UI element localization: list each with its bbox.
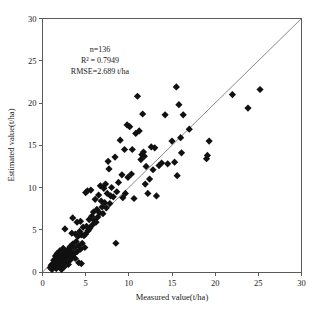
data-point <box>139 110 146 117</box>
data-point <box>144 190 151 197</box>
data-point <box>111 153 118 160</box>
y-tick-label-10: 10 <box>28 183 37 193</box>
data-point <box>244 104 251 111</box>
data-point <box>177 134 184 141</box>
y-tick-label-0: 0 <box>32 267 36 277</box>
x-tick-label-30: 30 <box>297 278 306 288</box>
y-tick-label-5: 5 <box>32 225 36 235</box>
data-point <box>149 166 156 173</box>
y-axis-ticks <box>39 19 43 273</box>
data-point <box>112 240 119 247</box>
data-point <box>134 93 141 100</box>
data-point <box>61 225 68 232</box>
data-point <box>180 111 187 118</box>
x-axis-title: Measured value(t/ha) <box>136 292 209 302</box>
x-axis-ticks <box>43 272 302 276</box>
y-axis-tick-labels: 051015202530 <box>28 14 37 278</box>
data-point <box>174 172 181 179</box>
data-point <box>229 91 236 98</box>
y-tick-label-20: 20 <box>28 98 37 108</box>
data-point <box>256 86 263 93</box>
data-point <box>164 160 171 167</box>
y-tick-label-25: 25 <box>28 56 37 66</box>
annotation-rmse: RMSE=2.689 t/ha <box>71 67 130 76</box>
annotation-r-squared: R² = 0.7949 <box>81 56 119 65</box>
x-tick-label-10: 10 <box>125 278 134 288</box>
x-tick-label-5: 5 <box>84 278 88 288</box>
data-point <box>178 149 185 156</box>
data-point <box>146 175 153 182</box>
x-tick-label-15: 15 <box>168 278 177 288</box>
data-point <box>173 83 180 90</box>
x-axis-tick-labels: 051015202530 <box>40 278 305 288</box>
x-tick-label-25: 25 <box>254 278 263 288</box>
y-tick-label-30: 30 <box>28 14 37 24</box>
data-point <box>105 158 112 165</box>
data-point <box>108 184 115 191</box>
data-point <box>206 137 213 144</box>
data-point-group <box>47 83 264 273</box>
y-axis-title: Estimated value(t/ha) <box>6 108 16 181</box>
data-point <box>117 137 124 144</box>
data-point <box>153 192 160 199</box>
annotation-sample-size: n=136 <box>90 45 111 54</box>
data-point <box>143 163 150 170</box>
data-point <box>168 137 175 144</box>
x-tick-label-0: 0 <box>40 278 44 288</box>
data-point <box>105 165 112 172</box>
data-point <box>121 146 128 153</box>
data-point <box>161 111 168 118</box>
data-point <box>175 101 182 108</box>
data-point <box>115 179 122 186</box>
plot-canvas: 051015202530 051015202530 Measured value… <box>0 0 323 315</box>
data-point <box>186 126 193 133</box>
x-tick-label-20: 20 <box>211 278 220 288</box>
data-point <box>142 181 149 188</box>
scatter-plot-figure: 051015202530 051015202530 Measured value… <box>0 0 323 315</box>
data-point <box>130 195 137 202</box>
data-point <box>129 146 136 153</box>
data-point <box>171 159 178 166</box>
y-tick-label-15: 15 <box>28 140 37 150</box>
